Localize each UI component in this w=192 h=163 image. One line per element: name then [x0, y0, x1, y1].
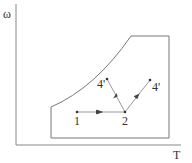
point-4prime-right-marker: [149, 79, 152, 82]
path-1-to-2: [77, 110, 125, 114]
point-1-marker: [76, 111, 79, 114]
x-axis-label: T: [173, 148, 181, 162]
point-2-marker: [124, 111, 127, 114]
y-axis-label: ω: [3, 7, 11, 21]
path-2-to-4prime-left: [107, 79, 125, 112]
point-4prime-left-marker: [106, 78, 109, 81]
arrow-icon: [96, 110, 102, 114]
path-2-to-4prime-right: [125, 80, 150, 112]
point-4prime-right-label: 4': [152, 80, 160, 94]
arrow-icon: [134, 94, 140, 100]
point-4prime-left-label: 4': [97, 77, 105, 91]
point-2-label: 2: [122, 114, 128, 128]
point-1-label: 1: [74, 114, 80, 128]
diagram-canvas: ω T 1 2 4' 4': [0, 0, 192, 163]
